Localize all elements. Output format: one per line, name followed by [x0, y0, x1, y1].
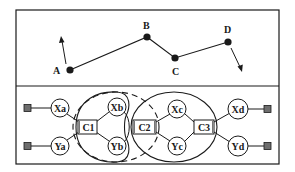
point-d	[224, 38, 231, 45]
node-xa: Xa	[51, 99, 69, 117]
trajectory-panel: A B C D	[53, 20, 243, 77]
connector-c3-label: C3	[198, 122, 210, 133]
arrow-up-icon	[59, 36, 66, 64]
point-d-label: D	[224, 24, 231, 35]
connector-c3: C3	[194, 120, 214, 134]
node-ya: Ya	[51, 137, 69, 155]
connector-c1-label: C1	[82, 122, 94, 133]
node-yb: Yb	[108, 137, 126, 155]
connector-c2-label: C2	[138, 122, 150, 133]
terminal-right-top	[264, 106, 271, 113]
node-xd: Xd	[228, 99, 248, 119]
point-a	[66, 66, 73, 73]
terminal-left-top	[24, 105, 31, 112]
terminal-right-bottom	[264, 143, 271, 150]
node-xc: Xc	[168, 100, 186, 118]
node-xb: Xb	[108, 98, 126, 116]
network-panel: Xa Ya Xb Yb Xc Yc Xd Yd	[24, 92, 271, 162]
arrow-down-icon	[231, 48, 243, 72]
node-xa-label: Xa	[54, 103, 66, 114]
point-c	[171, 54, 178, 61]
node-xd-label: Xd	[232, 104, 245, 115]
node-xb-label: Xb	[111, 102, 124, 113]
node-yb-label: Yb	[111, 141, 124, 152]
point-a-label: A	[53, 65, 61, 76]
terminal-left-bottom	[24, 143, 31, 150]
diagram-canvas: A B C D	[0, 0, 295, 172]
node-yd-label: Yd	[232, 141, 245, 152]
node-yd: Yd	[228, 136, 248, 156]
point-b-label: B	[143, 20, 150, 31]
point-b	[143, 33, 150, 40]
node-xc-label: Xc	[171, 104, 183, 115]
connector-c1: C1	[78, 120, 97, 134]
trajectory-path	[70, 37, 228, 70]
node-yc: Yc	[168, 137, 186, 155]
connector-c2: C2	[133, 120, 156, 134]
point-c-label: C	[172, 66, 179, 77]
node-yc-label: Yc	[171, 141, 183, 152]
node-ya-label: Ya	[54, 141, 65, 152]
